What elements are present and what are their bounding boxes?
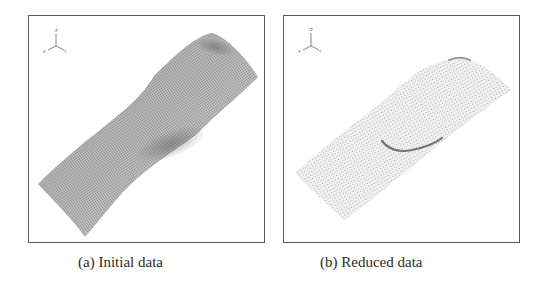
- panel-reduced-data: Z X Y: [283, 15, 520, 243]
- point-cloud-sparse: Z X Y: [284, 16, 518, 241]
- caption-reduced-data: (b) Reduced data: [320, 254, 422, 271]
- axis-y-label: Y: [63, 49, 67, 54]
- axis-x-label: X: [43, 49, 46, 54]
- axis-z-label: Z: [55, 28, 58, 33]
- axis-triad-icon: [303, 33, 319, 50]
- point-cloud-dense: Z X Y: [29, 16, 263, 241]
- axis-triad-icon: [48, 34, 64, 50]
- axis-y-label: Y: [318, 49, 322, 54]
- axis-z-label: Z: [310, 27, 313, 32]
- axis-x-label: X: [298, 49, 301, 54]
- caption-initial-data: (a) Initial data: [78, 254, 163, 271]
- surface-shading: [38, 33, 258, 237]
- surface-sparse: [295, 58, 511, 220]
- panel-initial-data: Z X Y: [28, 15, 265, 243]
